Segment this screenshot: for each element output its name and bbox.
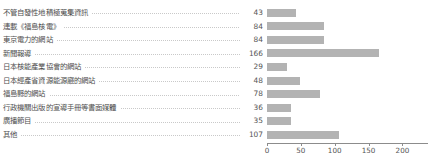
chart-row: 不管自發性地積極蒐集資訊43	[0, 6, 265, 20]
bar-row	[267, 6, 430, 20]
chart-row: 福島縣的網站78	[0, 87, 265, 101]
x-axis-tick-label: 50	[296, 147, 305, 154]
leader-line	[50, 95, 240, 96]
bar	[267, 9, 296, 17]
bar-row	[267, 87, 430, 101]
bar-row	[267, 60, 430, 74]
leader-line	[99, 81, 240, 82]
horizontal-bar-chart: 不管自發性地積極蒐集資訊43連載《福島核電》84東京電力的網站84新聞報導166…	[0, 0, 430, 165]
chart-row: 日本核能產業協會的網站29	[0, 60, 265, 74]
value-label: 84	[243, 36, 265, 43]
bar	[267, 49, 379, 57]
chart-row: 行政機關出版的宣導手冊等書面媒體36	[0, 101, 265, 115]
x-axis-tick-label: 150	[362, 147, 376, 154]
category-label: 日本核能產業協會的網站	[0, 63, 81, 70]
value-label: 166	[243, 50, 265, 57]
bar-row	[267, 114, 430, 128]
leader-line	[57, 40, 240, 41]
leader-line	[64, 27, 240, 28]
category-label: 新聞報導	[0, 50, 31, 57]
bar	[267, 63, 287, 71]
bar	[267, 131, 339, 139]
value-label: 84	[243, 23, 265, 30]
bar-row	[267, 33, 430, 47]
category-label: 其他	[0, 131, 17, 138]
value-label: 36	[243, 104, 265, 111]
bar-row	[267, 101, 430, 115]
value-label: 107	[243, 131, 265, 138]
chart-row: 連載《福島核電》84	[0, 20, 265, 34]
bar-row	[267, 74, 430, 88]
leader-line	[121, 108, 240, 109]
x-axis-line	[267, 143, 428, 144]
chart-row: 東京電力的網站84	[0, 33, 265, 47]
x-axis-tick-label: 100	[328, 147, 342, 154]
value-label: 43	[243, 9, 265, 16]
bar-row	[267, 20, 430, 34]
chart-row: 其他107	[0, 128, 265, 142]
category-label: 連載《福島核電》	[0, 23, 60, 30]
plot-area: 050100150200	[267, 6, 430, 165]
category-label: 日本經產省資源能源廳的網站	[0, 77, 95, 84]
x-axis-tick-label: 200	[396, 147, 410, 154]
bar	[267, 36, 324, 44]
category-label: 東京電力的網站	[0, 36, 53, 43]
bar	[267, 117, 291, 125]
chart-row: 日本經產省資源能源廳的網站48	[0, 74, 265, 88]
chart-row: 新聞報導166	[0, 47, 265, 61]
value-label: 48	[243, 77, 265, 84]
bar-series	[267, 6, 430, 141]
category-label: 福島縣的網站	[0, 90, 46, 97]
bar	[267, 104, 291, 112]
bar	[267, 22, 324, 30]
category-label-column: 不管自發性地積極蒐集資訊43連載《福島核電》84東京電力的網站84新聞報導166…	[0, 6, 265, 141]
leader-line	[35, 54, 240, 55]
x-axis-tick-label: 0	[265, 147, 270, 154]
bar	[267, 77, 300, 85]
bar-row	[267, 47, 430, 61]
value-label: 29	[243, 63, 265, 70]
bar	[267, 90, 320, 98]
leader-line	[92, 13, 240, 14]
bar-row	[267, 128, 430, 142]
category-label: 行政機關出版的宣導手冊等書面媒體	[0, 104, 117, 111]
x-axis: 050100150200	[267, 143, 430, 165]
chart-row: 廣播節目35	[0, 114, 265, 128]
value-label: 78	[243, 90, 265, 97]
category-label: 不管自發性地積極蒐集資訊	[0, 9, 88, 16]
leader-line	[85, 67, 240, 68]
category-label: 廣播節目	[0, 117, 31, 124]
leader-line	[35, 122, 240, 123]
leader-line	[21, 135, 240, 136]
value-label: 35	[243, 117, 265, 124]
